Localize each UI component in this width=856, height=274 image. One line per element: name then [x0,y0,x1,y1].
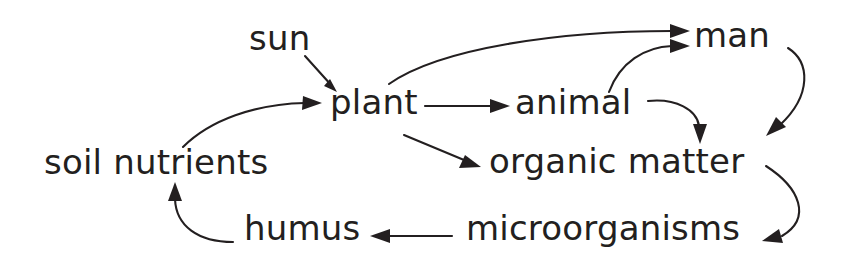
edge-soil-nutrients-to-plant-line [183,103,305,147]
edge-animal-to-organic-matter-line [648,101,699,126]
node-organic-matter: organic matter [489,144,744,178]
edge-humus-to-soil-nutrients-arrowhead [168,182,182,201]
node-soil-nutrients: soil nutrients [44,145,268,179]
node-plant: plant [330,85,418,119]
edge-animal-to-organic-matter [648,101,707,144]
ecosystem-cycle-diagram: sun plant animal man organic matter soil… [0,0,856,274]
edge-organic-matter-to-microorganisms-line [766,166,799,236]
edge-humus-to-soil-nutrients-line [175,199,233,242]
edge-humus-to-soil-nutrients [168,182,233,242]
edge-organic-matter-to-microorganisms-arrowhead [762,229,783,243]
edge-man-to-organic-matter-line [780,48,804,125]
node-humus: humus [244,211,360,245]
edge-plant-to-animal-arrowhead [490,99,510,113]
edge-plant-to-organic-matter-line [404,135,464,160]
edge-plant-to-animal [425,99,510,113]
edge-soil-nutrients-to-plant [183,96,322,147]
edge-microorganisms-to-humus [370,229,452,243]
edge-microorganisms-to-humus-arrowhead [370,229,390,243]
edge-animal-to-man-arrowhead [670,39,690,53]
edge-plant-to-organic-matter-arrowhead [459,155,481,168]
edge-soil-nutrients-to-plant-arrowhead [302,96,322,110]
edge-plant-to-man-line [389,31,672,84]
node-man: man [694,18,770,52]
edge-man-to-organic-matter-arrowhead [766,117,786,136]
node-sun: sun [249,21,310,55]
node-animal: animal [515,85,631,119]
edge-organic-matter-to-microorganisms [762,166,799,243]
node-microorganisms: microorganisms [466,211,740,245]
edge-plant-to-organic-matter [404,135,481,168]
edge-man-to-organic-matter [766,48,804,136]
edge-plant-to-man [389,24,690,84]
edge-plant-to-man-arrowhead [670,24,690,38]
